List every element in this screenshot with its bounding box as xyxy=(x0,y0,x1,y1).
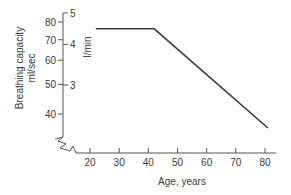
x-tick-label: 30 xyxy=(114,157,126,168)
y-axis-label-line1: Breathing capacity xyxy=(14,27,25,109)
x-tick-label: 60 xyxy=(201,157,213,168)
axis-lines xyxy=(58,13,276,153)
y-tick-label: 60 xyxy=(45,55,57,66)
y2-axis-label: l/min xyxy=(82,36,93,57)
breathing-capacity-chart: 203040506070804050607080345 Breathing ca… xyxy=(0,0,291,195)
y2-tick-label: 3 xyxy=(70,80,76,91)
y-tick-label: 70 xyxy=(45,35,57,46)
x-axis-label: Age, years xyxy=(158,176,206,187)
x-tick-label: 70 xyxy=(230,157,242,168)
data-line xyxy=(96,29,268,128)
axes xyxy=(55,13,276,153)
y-tick-label: 40 xyxy=(45,109,57,120)
y-axis-label-line2: ml/sec xyxy=(26,54,37,83)
x-tick-label: 20 xyxy=(84,157,96,168)
x-tick-label: 40 xyxy=(143,157,155,168)
y2-tick-label: 5 xyxy=(70,8,76,19)
y2-tick-label: 4 xyxy=(70,39,76,50)
y-tick-label: 80 xyxy=(45,17,57,28)
x-tick-label: 50 xyxy=(172,157,184,168)
x-tick-label: 80 xyxy=(259,157,271,168)
y-tick-label: 50 xyxy=(45,79,57,90)
